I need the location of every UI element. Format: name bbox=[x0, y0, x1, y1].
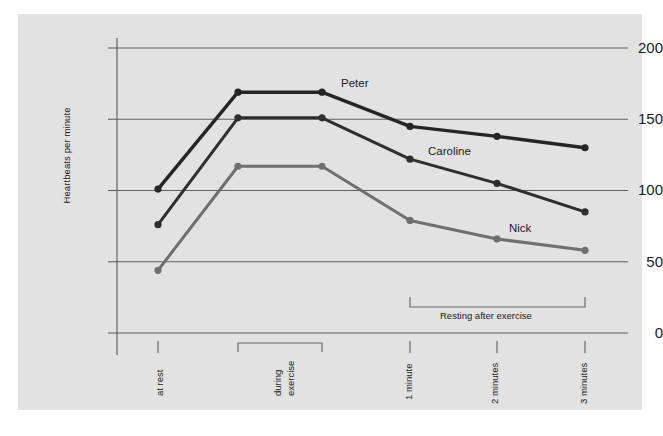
data-point-nick-4 bbox=[493, 235, 500, 242]
data-point-caroline-4 bbox=[493, 180, 500, 187]
data-point-nick-3 bbox=[406, 217, 413, 224]
data-point-nick-1 bbox=[234, 163, 241, 170]
bracket-during-exercise bbox=[238, 343, 322, 352]
data-point-nick-5 bbox=[581, 247, 588, 254]
bracket-shapes bbox=[238, 297, 585, 352]
data-point-nick-2 bbox=[318, 163, 325, 170]
gridlines bbox=[108, 48, 628, 333]
x-tick-marks bbox=[158, 341, 585, 353]
data-point-caroline-0 bbox=[154, 221, 161, 228]
data-point-peter-5 bbox=[581, 144, 588, 151]
data-point-peter-2 bbox=[318, 89, 325, 96]
series-line-caroline bbox=[158, 118, 585, 225]
data-point-caroline-1 bbox=[234, 114, 241, 121]
data-point-peter-4 bbox=[493, 133, 500, 140]
data-point-peter-3 bbox=[406, 123, 413, 130]
data-point-nick-0 bbox=[154, 267, 161, 274]
data-point-caroline-5 bbox=[581, 208, 588, 215]
data-point-caroline-3 bbox=[406, 156, 413, 163]
chart-page: Heartbeats per minute 200 150 100 50 0 a… bbox=[0, 0, 663, 436]
series-line-nick bbox=[158, 166, 585, 270]
chart-plot-area bbox=[0, 0, 663, 436]
data-point-caroline-2 bbox=[318, 114, 325, 121]
data-series-group bbox=[154, 89, 588, 274]
bracket-resting-after-exercise bbox=[410, 297, 585, 307]
data-point-peter-1 bbox=[234, 89, 241, 96]
data-point-peter-0 bbox=[154, 185, 161, 192]
